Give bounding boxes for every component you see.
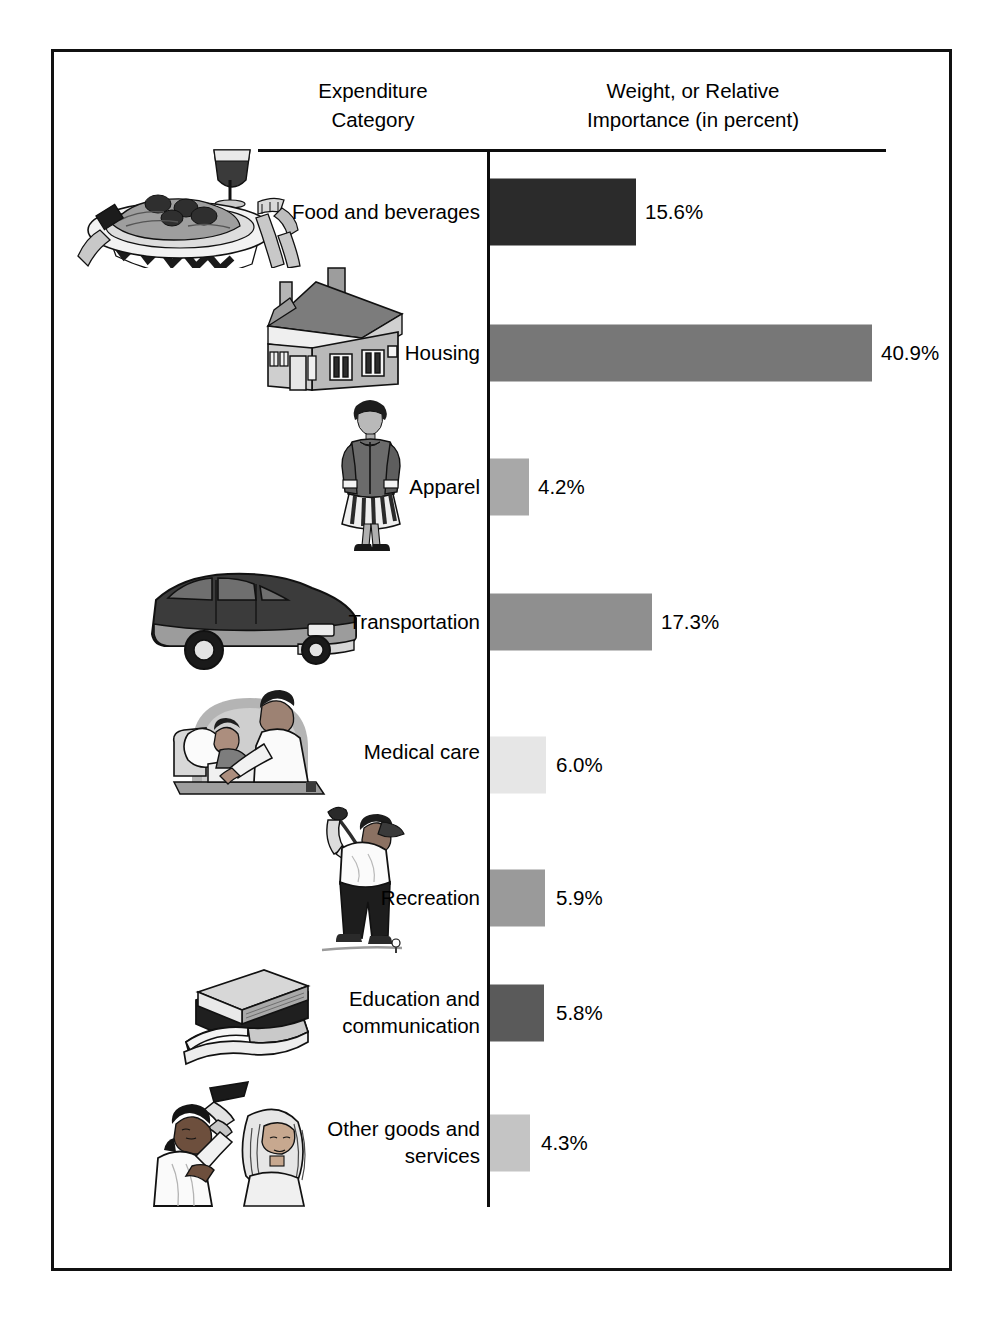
bar	[490, 737, 546, 794]
bar-value-label: 40.9%	[881, 341, 939, 365]
column-header-expenditure-category: Expenditure Category	[258, 76, 488, 134]
row-label: Recreation	[180, 885, 480, 912]
bar	[490, 985, 544, 1042]
golfer-swinging-club-icon	[320, 800, 440, 960]
bar-value-label: 15.6%	[645, 200, 703, 224]
bar-value-label: 4.2%	[538, 475, 585, 499]
bar	[490, 179, 636, 246]
bar	[490, 594, 652, 651]
axis-top-rule	[258, 149, 886, 152]
row-label: Housing	[180, 340, 480, 367]
bar-value-label: 6.0%	[556, 753, 603, 777]
bar-value-label: 5.8%	[556, 1001, 603, 1025]
bar	[490, 459, 529, 516]
bar-value-label: 4.3%	[541, 1131, 588, 1155]
row-label: Other goods and services	[180, 1116, 480, 1169]
axis-vertical-baseline	[487, 149, 490, 1207]
column-header-weight-relative-importance: Weight, or Relative Importance (in perce…	[503, 76, 883, 134]
row-label: Transportation	[180, 609, 480, 636]
row-label: Apparel	[180, 474, 480, 501]
bar-value-label: 5.9%	[556, 886, 603, 910]
row-label: Medical care	[180, 739, 480, 766]
bar-value-label: 17.3%	[661, 610, 719, 634]
chart-page: Expenditure Category Weight, or Relative…	[0, 0, 1005, 1326]
bar	[490, 325, 872, 382]
row-label: Food and beverages	[180, 199, 480, 226]
row-label: Education and communication	[180, 986, 480, 1039]
bar	[490, 1115, 530, 1172]
house-icon	[250, 264, 415, 394]
bar	[490, 870, 545, 927]
